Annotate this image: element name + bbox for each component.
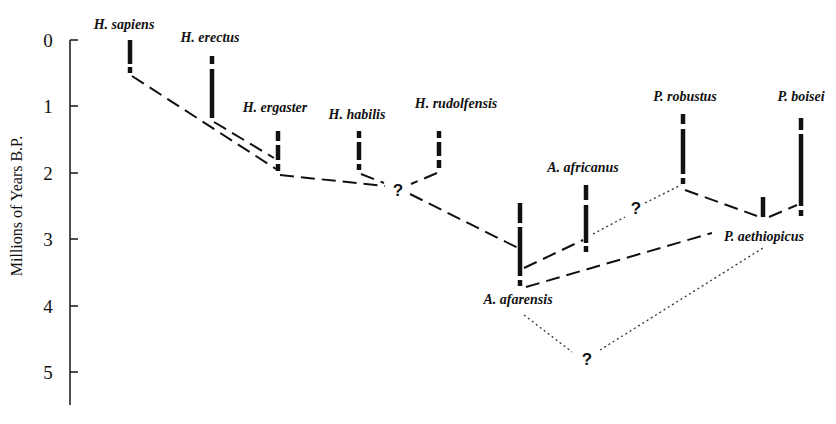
taxon-label-h-sapiens: H. sapiens xyxy=(93,17,155,32)
taxon-label-p-robustus: P. robustus xyxy=(653,89,717,104)
tick-label-2: 2 xyxy=(43,163,53,184)
taxon-label-p-boisei: P. boisei xyxy=(777,89,824,104)
axis-title: Millions of Years B.P. xyxy=(8,136,25,276)
tick-label-5: 5 xyxy=(43,362,53,383)
dotted-uncertain-links xyxy=(524,185,763,352)
hominin-phylogeny-diagram: 0 1 2 3 4 5 Millions of Years B.P. xyxy=(0,0,836,424)
uncertain-node-homo: ? xyxy=(393,181,403,200)
uncertain-node-basal: ? xyxy=(582,350,592,369)
taxon-label-a-africanus: A. africanus xyxy=(546,160,619,175)
taxon-label-h-ergaster: H. ergaster xyxy=(242,100,308,115)
taxon-label-h-habilis: H. habilis xyxy=(328,107,386,122)
taxon-label-h-erectus: H. erectus xyxy=(179,30,240,45)
species-range-bars xyxy=(130,40,801,286)
tick-label-3: 3 xyxy=(43,229,53,250)
tick-label-1: 1 xyxy=(43,96,53,117)
taxon-label-p-aethiopicus: P. aethiopicus xyxy=(724,229,804,244)
tick-label-4: 4 xyxy=(43,296,53,317)
uncertain-node-robustus: ? xyxy=(631,199,641,218)
time-axis: 0 1 2 3 4 5 Millions of Years B.P. xyxy=(8,30,78,405)
taxon-label-a-afarensis: A. afarensis xyxy=(482,292,553,307)
taxon-label-h-rudolfensis: H. rudolfensis xyxy=(414,96,498,111)
tick-label-0: 0 xyxy=(43,30,53,51)
